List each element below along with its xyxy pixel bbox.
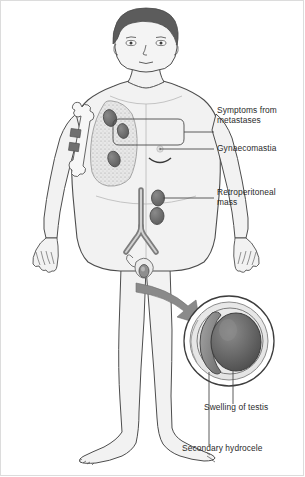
testicular-tumour-figure: Symptoms from metastases Gynaecomastia R… (0, 0, 305, 477)
testis-highlight (219, 319, 237, 341)
label-swelling-of-testis: Swelling of testis (204, 403, 268, 413)
label-retroperitoneal-mass: Retroperitoneal mass (217, 188, 276, 207)
bone-metastasis-band-2 (68, 142, 79, 151)
label-symptoms-from-metastases: Symptoms from metastases (217, 106, 277, 125)
magnified-testis-inset (184, 296, 274, 386)
label-secondary-hydrocele: Secondary hydrocele (182, 444, 263, 454)
testis-mass (211, 313, 261, 371)
retroperitoneal-node-2 (150, 208, 164, 225)
retroperitoneal-node-1 (152, 190, 165, 206)
bone-metastasis-band-1 (70, 128, 81, 137)
right-leg-region (80, 268, 147, 463)
label-gynaecomastia: Gynaecomastia (217, 144, 277, 154)
